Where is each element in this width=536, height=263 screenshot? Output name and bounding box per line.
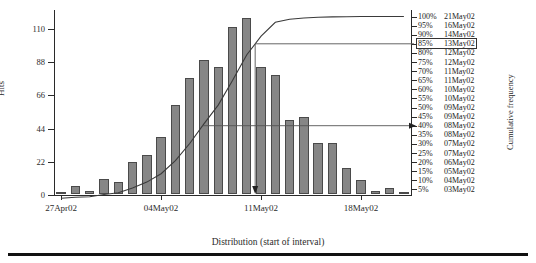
percentile-value: 70%: [418, 67, 444, 76]
percentile-tick: [412, 62, 417, 63]
y-axis-title: Hits: [0, 81, 6, 96]
percentile-value: 100%: [418, 12, 444, 21]
percentile-row[interactable]: 30%07May02: [418, 139, 475, 148]
percentile-date: 08May02: [444, 121, 475, 130]
percentile-tick: [412, 17, 417, 18]
histogram-bar: [199, 60, 208, 194]
histogram-bar: [313, 143, 322, 194]
x-tick: [161, 195, 162, 200]
percentile-tick: [412, 180, 417, 181]
percentile-value: 85%: [418, 39, 444, 48]
histogram-bar: [56, 192, 65, 194]
histogram-bar: [185, 78, 194, 194]
percentile-date: 10May02: [444, 85, 475, 94]
percentile-tick: [412, 162, 417, 163]
histogram-bar: [242, 18, 251, 194]
percentile-date: 16May02: [444, 21, 475, 30]
histogram-bar: [171, 105, 180, 194]
percentile-tick: [412, 108, 417, 109]
percentile-row[interactable]: 40%08May02: [418, 121, 475, 130]
percentile-row[interactable]: 70%11May02: [418, 67, 474, 76]
percentile-value: 45%: [418, 112, 444, 121]
percentile-row[interactable]: 55%10May02: [418, 94, 475, 103]
percentile-date: 04May02: [444, 176, 475, 185]
histogram-bar: [156, 137, 165, 194]
percentile-value: 55%: [418, 94, 444, 103]
percentile-row[interactable]: 65%11May02: [418, 76, 474, 85]
bottom-rule: [8, 253, 528, 256]
percentile-tick: [412, 135, 417, 136]
percentile-date: 12May02: [444, 48, 475, 57]
percentile-value: 95%: [418, 21, 444, 30]
percentile-value: 50%: [418, 103, 444, 112]
histogram-bar: [271, 75, 280, 194]
x-tick-label: 11May02: [244, 203, 278, 213]
percentile-date: 09May02: [444, 103, 475, 112]
percentile-date: 06May02: [444, 158, 475, 167]
percentile-row[interactable]: 95%16May02: [418, 21, 475, 30]
percentile-date: 08May02: [444, 130, 475, 139]
secondary-y-axis-title: Cumulative frequency: [505, 74, 515, 150]
percentile-date: 03May02: [444, 185, 475, 194]
percentile-row[interactable]: 5%03May02: [418, 185, 475, 194]
percentile-tick: [412, 144, 417, 145]
percentile-value: 15%: [418, 167, 444, 176]
histogram-bar: [385, 188, 394, 194]
percentile-row[interactable]: 35%08May02: [418, 130, 475, 139]
x-axis-line: [54, 195, 412, 196]
percentile-tick: [412, 53, 417, 54]
x-tick: [61, 195, 62, 200]
percentile-row[interactable]: 10%04May02: [418, 176, 475, 185]
histogram-bar: [228, 27, 237, 194]
percentile-row[interactable]: 100%21May02: [418, 12, 475, 21]
percentile-value: 65%: [418, 76, 444, 85]
percentile-tick: [412, 80, 417, 81]
percentile-date: 07May02: [444, 139, 475, 148]
percentile-row[interactable]: 25%07May02: [418, 149, 475, 158]
percentile-value: 35%: [418, 130, 444, 139]
percentile-row-highlighted[interactable]: 85%13May02: [417, 39, 476, 48]
percentile-row[interactable]: 60%10May02: [418, 85, 475, 94]
histogram-bar: [328, 143, 337, 194]
percentile-value: 30%: [418, 139, 444, 148]
histogram-bar: [214, 67, 223, 194]
percentile-value: 5%: [418, 185, 444, 194]
percentile-value: 75%: [418, 58, 444, 67]
percentile-date: 11May02: [444, 67, 474, 76]
y-tick-label: 0: [41, 191, 45, 200]
histogram-bar: [399, 192, 408, 194]
percentile-tick: [412, 35, 417, 36]
secondary-y-axis-line: [411, 10, 412, 196]
histogram-bar: [356, 180, 365, 194]
chart-figure: Hits Cumulative frequency 022446688110 2…: [0, 0, 536, 263]
y-tick-label: 66: [37, 91, 46, 100]
percentile-row[interactable]: 90%14May02: [418, 30, 475, 39]
percentile-value: 40%: [418, 121, 444, 130]
percentile-row[interactable]: 15%05May02: [418, 167, 475, 176]
percentile-tick: [412, 126, 417, 127]
x-tick-label: 04May02: [144, 203, 179, 213]
x-tick-label: 18May02: [344, 203, 379, 213]
percentile-row[interactable]: 75%12May02: [418, 58, 475, 67]
percentile-row[interactable]: 50%09May02: [418, 103, 475, 112]
histogram-bars: [54, 14, 411, 194]
histogram-bar: [256, 67, 265, 194]
percentile-tick: [412, 189, 417, 190]
histogram-bar: [128, 162, 137, 194]
percentile-date: 11May02: [444, 76, 474, 85]
percentile-row[interactable]: 20%06May02: [418, 158, 475, 167]
percentile-row[interactable]: 45%09May02: [418, 112, 475, 121]
histogram-bar: [71, 186, 80, 194]
histogram-bar: [342, 168, 351, 194]
percentile-date: 13May02: [444, 39, 475, 48]
percentile-tick: [412, 153, 417, 154]
percentile-date: 05May02: [444, 167, 475, 176]
percentile-date: 07May02: [444, 149, 475, 158]
percentile-date: 21May02: [444, 12, 475, 21]
percentile-row[interactable]: 80%12May02: [418, 48, 475, 57]
histogram-bar: [85, 191, 94, 194]
x-tick-label: 27Apr02: [45, 203, 77, 213]
x-axis-title: Distribution (start of interval): [0, 237, 536, 247]
percentile-value: 25%: [418, 149, 444, 158]
histogram-bar: [114, 182, 123, 194]
